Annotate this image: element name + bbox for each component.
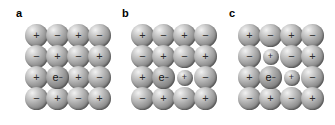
ion-charge-sign: + bbox=[288, 30, 294, 41]
ion-charge-sign: + bbox=[54, 51, 60, 62]
cation-sphere: + bbox=[284, 70, 300, 86]
ion-charge-sign: + bbox=[246, 30, 252, 41]
ion-charge-sign: − bbox=[288, 51, 294, 62]
anion-sphere: − bbox=[131, 45, 154, 68]
electron-charge-superscript: − bbox=[59, 74, 63, 81]
anion-sphere: − bbox=[46, 24, 69, 47]
anion-sphere: − bbox=[67, 87, 90, 110]
ion-charge-sign: − bbox=[54, 30, 60, 41]
ion-charge-sign: + bbox=[160, 93, 166, 104]
ion-charge-sign: − bbox=[139, 51, 145, 62]
anion-sphere: − bbox=[238, 45, 261, 68]
ion-charge-sign: − bbox=[202, 30, 208, 41]
cation-sphere: + bbox=[177, 70, 193, 86]
ion-charge-sign: + bbox=[246, 72, 252, 83]
cation-sphere: + bbox=[301, 45, 324, 68]
ion-lattice-b: +−+−−+−++e−+−−+−+ bbox=[131, 24, 213, 114]
anion-sphere: − bbox=[88, 66, 111, 89]
cation-sphere: + bbox=[238, 66, 261, 89]
anion-sphere: − bbox=[67, 45, 90, 68]
ion-charge-sign: − bbox=[309, 72, 315, 83]
anion-sphere: − bbox=[194, 24, 217, 47]
anion-sphere: − bbox=[88, 24, 111, 47]
electron-charge-superscript: − bbox=[272, 74, 276, 81]
cation-sphere: + bbox=[67, 24, 90, 47]
cation-sphere: + bbox=[131, 66, 154, 89]
anion-sphere: − bbox=[301, 66, 324, 89]
anion-sphere: − bbox=[173, 45, 196, 68]
electron-sphere: e− bbox=[46, 66, 69, 89]
anion-sphere: − bbox=[173, 87, 196, 110]
cation-sphere: + bbox=[25, 24, 48, 47]
ion-charge-sign: + bbox=[33, 72, 39, 83]
ion-charge-sign: − bbox=[139, 93, 145, 104]
anion-sphere: − bbox=[259, 24, 282, 47]
ion-charge-sign: + bbox=[309, 51, 315, 62]
ion-charge-sign: − bbox=[96, 72, 102, 83]
ion-charge-sign: − bbox=[288, 93, 294, 104]
ion-charge-sign: − bbox=[267, 30, 273, 41]
cation-sphere: + bbox=[88, 87, 111, 110]
cation-sphere: + bbox=[88, 45, 111, 68]
ion-charge-sign: + bbox=[160, 51, 166, 62]
ion-charge-sign: + bbox=[96, 93, 102, 104]
cation-sphere: + bbox=[280, 24, 303, 47]
panel-c: c+−+−−+−++e−+−−+−+ bbox=[213, 0, 325, 125]
electron-sphere: e− bbox=[259, 66, 282, 89]
cation-sphere: + bbox=[46, 87, 69, 110]
ion-charge-sign: − bbox=[202, 72, 208, 83]
ion-charge-sign: + bbox=[267, 93, 273, 104]
ion-charge-sign: − bbox=[181, 51, 187, 62]
cation-sphere: + bbox=[46, 45, 69, 68]
cation-sphere: + bbox=[301, 87, 324, 110]
ion-charge-sign: − bbox=[246, 51, 252, 62]
ion-charge-sign: − bbox=[75, 51, 81, 62]
panel-label-a: a bbox=[16, 7, 22, 19]
ion-lattice-a: +−+−−+−++e−+−−+−+ bbox=[25, 24, 107, 114]
anion-sphere: − bbox=[25, 87, 48, 110]
ion-charge-sign: + bbox=[202, 93, 208, 104]
panel-label-c: c bbox=[229, 7, 235, 19]
ion-lattice-c: +−+−−+−++e−+−−+−+ bbox=[238, 24, 320, 114]
ion-charge-sign: + bbox=[268, 52, 273, 61]
anion-sphere: − bbox=[25, 45, 48, 68]
cation-sphere: + bbox=[263, 49, 279, 65]
ion-charge-sign: + bbox=[139, 72, 145, 83]
cation-sphere: + bbox=[194, 87, 217, 110]
ion-charge-sign: + bbox=[202, 51, 208, 62]
anion-sphere: − bbox=[280, 45, 303, 68]
ion-charge-sign: − bbox=[96, 30, 102, 41]
anion-sphere: − bbox=[301, 24, 324, 47]
anion-sphere: − bbox=[152, 24, 175, 47]
ion-charge-sign: + bbox=[54, 93, 60, 104]
ion-charge-sign: − bbox=[160, 30, 166, 41]
ion-charge-sign: + bbox=[96, 51, 102, 62]
panel-b: b+−+−−+−++e−+−−+−+ bbox=[106, 0, 218, 125]
ion-charge-sign: + bbox=[289, 73, 294, 82]
ion-charge-sign: − bbox=[75, 93, 81, 104]
ion-charge-sign: − bbox=[246, 93, 252, 104]
cation-sphere: + bbox=[194, 45, 217, 68]
cation-sphere: + bbox=[152, 45, 175, 68]
ion-charge-sign: − bbox=[181, 93, 187, 104]
anion-sphere: − bbox=[238, 87, 261, 110]
ion-charge-sign: − bbox=[309, 30, 315, 41]
anion-sphere: − bbox=[131, 87, 154, 110]
electron-sphere: e− bbox=[152, 66, 175, 89]
figure-container: a+−+−−+−++e−+−−+−+b+−+−−+−++e−+−−+−+c+−+… bbox=[0, 0, 335, 125]
cation-sphere: + bbox=[152, 87, 175, 110]
panel-label-b: b bbox=[122, 7, 129, 19]
ion-charge-sign: + bbox=[75, 30, 81, 41]
anion-sphere: − bbox=[194, 66, 217, 89]
ion-charge-sign: + bbox=[181, 30, 187, 41]
cation-sphere: + bbox=[25, 66, 48, 89]
ion-charge-sign: + bbox=[309, 93, 315, 104]
cation-sphere: + bbox=[259, 87, 282, 110]
ion-charge-sign: − bbox=[33, 51, 39, 62]
ion-charge-sign: + bbox=[182, 73, 187, 82]
cation-sphere: + bbox=[173, 24, 196, 47]
cation-sphere: + bbox=[238, 24, 261, 47]
cation-sphere: + bbox=[131, 24, 154, 47]
electron-charge-superscript: − bbox=[165, 74, 169, 81]
ion-charge-sign: − bbox=[33, 93, 39, 104]
